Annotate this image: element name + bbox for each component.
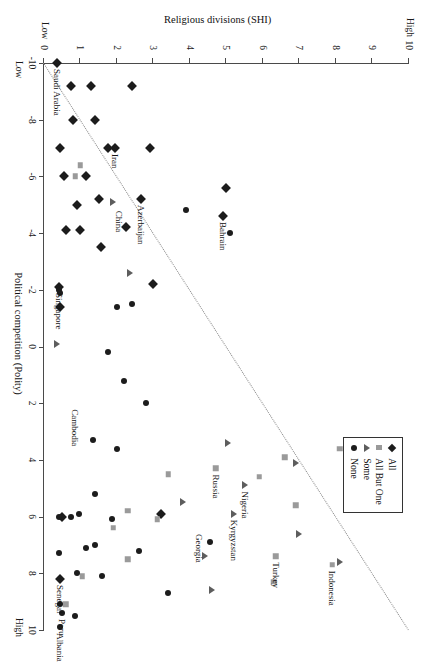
data-point	[54, 340, 60, 348]
data-point	[125, 508, 131, 514]
x-tick-label: 8	[27, 571, 37, 576]
x-axis-title: Political competition (Polity)	[13, 0, 24, 667]
data-point	[136, 548, 142, 554]
x-tick-label: 0	[27, 344, 37, 349]
legend-item-label: Some	[361, 458, 374, 480]
data-point	[227, 230, 233, 236]
x-tick-label: -6	[27, 172, 37, 180]
y-tick-label: 2	[112, 45, 122, 50]
y-tick-label: 1	[76, 45, 86, 50]
point-label: Azerbaijan	[136, 205, 146, 244]
legend-item-label: All	[386, 458, 399, 470]
data-point	[105, 349, 111, 355]
y-tick-label: 10	[404, 41, 414, 51]
point-label: Kyrgyzstan	[229, 520, 239, 561]
data-point	[90, 437, 96, 443]
data-point	[68, 514, 74, 520]
data-point	[293, 503, 299, 509]
data-point	[76, 511, 82, 517]
legend-item-none[interactable]: None	[348, 443, 361, 504]
point-label: Bahrain	[218, 222, 228, 251]
y-tick-label: 3	[149, 45, 159, 50]
point-label: Nigeria	[240, 491, 250, 518]
data-point	[180, 498, 186, 506]
y-axis-low-label: Low	[40, 22, 50, 39]
legend-item-label: All But One	[373, 458, 386, 504]
some-marker-icon	[364, 443, 370, 452]
data-point	[242, 481, 248, 489]
all-marker-icon	[389, 443, 395, 452]
data-point	[225, 439, 231, 447]
data-point	[72, 613, 78, 619]
data-point	[110, 198, 116, 206]
data-point	[165, 590, 171, 596]
data-point	[114, 304, 120, 310]
figure-rotation-wrapper: -10-8-6-4-20246810012345678910 Political…	[0, 0, 434, 667]
data-point	[74, 570, 80, 576]
data-point	[337, 446, 343, 452]
legend-item-some[interactable]: Some	[361, 443, 374, 504]
y-tick-label: 6	[258, 45, 268, 50]
data-point	[257, 474, 263, 480]
y-tick-label: 8	[331, 45, 341, 50]
abo-marker-icon	[377, 443, 383, 452]
x-tick-label: 2	[27, 401, 37, 406]
data-point	[282, 454, 288, 460]
point-label: Turkey	[271, 562, 281, 588]
data-point	[213, 466, 219, 472]
data-point	[165, 471, 171, 477]
y-tick-label: 4	[185, 45, 195, 50]
point-label: Georgia	[194, 534, 204, 563]
data-point	[92, 491, 98, 497]
point-label: Singapore	[54, 293, 64, 330]
legend-item-all[interactable]: All	[386, 443, 399, 504]
data-point	[337, 558, 343, 566]
data-point	[92, 542, 98, 548]
data-point	[207, 539, 213, 545]
y-axis-high-label: High	[405, 18, 415, 37]
y-tick-label: 5	[222, 45, 232, 50]
data-point	[129, 301, 135, 307]
legend-item-all-but-one[interactable]: All But One	[373, 443, 386, 504]
data-point	[154, 517, 160, 523]
point-label: Saudi Arabia	[52, 69, 62, 116]
y-tick-label: 0	[39, 45, 49, 50]
point-label: Cambodia	[70, 409, 80, 446]
data-point	[72, 174, 78, 180]
data-point	[78, 162, 84, 168]
scatter-chart: -10-8-6-4-20246810012345678910 Political…	[0, 0, 434, 667]
point-label: Albania	[55, 633, 65, 662]
x-tick	[39, 630, 44, 631]
data-point	[83, 545, 89, 551]
x-tick-label: 4	[27, 458, 37, 463]
data-point	[80, 573, 86, 579]
data-point	[231, 510, 237, 518]
legend: AllAll But OneSomeNone	[343, 437, 403, 512]
data-point	[127, 269, 133, 277]
data-point	[121, 378, 127, 384]
x-tick-label: -4	[27, 229, 37, 237]
x-tick-label: 10	[27, 625, 37, 635]
x-tick-label: -8	[27, 116, 37, 124]
x-tick-label: -2	[27, 286, 37, 294]
x-tick-label: -10	[27, 57, 37, 70]
data-point	[109, 516, 115, 522]
point-label: Indonesia	[327, 571, 337, 606]
data-point	[56, 550, 62, 556]
y-tick-label: 9	[368, 45, 378, 50]
point-label: China	[114, 211, 124, 233]
x-axis-low-label: Low	[14, 61, 24, 78]
point-label: Senegal	[55, 585, 65, 614]
none-marker-icon	[351, 443, 357, 452]
data-point	[125, 556, 131, 562]
data-point	[114, 446, 120, 452]
legend-item-label: None	[348, 458, 361, 479]
data-point	[209, 586, 215, 594]
data-point	[111, 525, 117, 531]
data-point	[56, 514, 62, 520]
data-point	[330, 562, 336, 568]
data-point	[273, 554, 279, 560]
data-point	[297, 530, 303, 538]
y-axis-title: Religious divisions (SHI)	[165, 14, 272, 25]
data-point	[143, 400, 149, 406]
